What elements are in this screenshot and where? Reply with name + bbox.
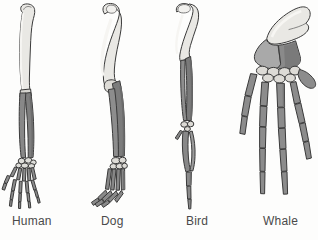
specimen-label-human: Human [12, 214, 52, 228]
bone-whale-digit-shade [283, 84, 285, 107]
specimen-label-dog: Dog [101, 214, 124, 228]
bone-bird-metacarpals [182, 131, 190, 172]
bone-whale-digit-3 [277, 83, 288, 194]
bone-dog-phalanges [91, 190, 123, 207]
specimen-bird [160, 0, 224, 212]
homologous-limbs-figure: Human [0, 0, 318, 240]
bone-human-metacarpals [10, 167, 36, 181]
whale-limb-diagram [224, 0, 318, 212]
specimen-dog [78, 0, 160, 212]
bone-human-phalanges [2, 175, 40, 208]
human-limb-diagram [0, 0, 78, 212]
bone-whale-digit-5 [298, 69, 316, 88]
specimen-whale [224, 0, 318, 212]
specimen-label-whale: Whale [263, 214, 298, 228]
bone-bird-metacarpal-loop [189, 131, 195, 171]
bone-dog-humerus [103, 3, 122, 87]
specimen-label-bird: Bird [186, 214, 208, 228]
dog-limb-diagram [78, 0, 160, 212]
bone-whale-digit-1 [240, 74, 257, 135]
specimen-human [0, 0, 78, 212]
bone-whale-humerus [267, 7, 310, 44]
bone-dog-metacarpal-shade [123, 171, 125, 190]
bone-bird-humerus-head [178, 5, 190, 13]
bone-bird-carpals [181, 121, 194, 131]
bird-limb-diagram [160, 0, 224, 212]
bone-human-radius [19, 93, 26, 158]
bone-dog-carpals [110, 157, 127, 169]
bone-dog-metacarpals [105, 169, 124, 191]
bone-dog-humerus-head [106, 5, 116, 13]
bone-whale-digit-2 [260, 82, 269, 194]
bone-bird-alula [175, 130, 182, 139]
bone-whale-carpals [256, 66, 300, 83]
bone-whale-digit-4 [290, 82, 311, 160]
bone-human-carpals [16, 158, 36, 169]
